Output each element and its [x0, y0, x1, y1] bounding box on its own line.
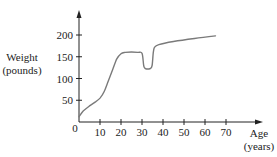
y-axis-label-line2: (pounds) — [2, 64, 41, 77]
x-tick-label: 10 — [95, 126, 107, 138]
x-tick-label: 50 — [179, 126, 191, 138]
x-tick-label: 60 — [200, 126, 212, 138]
y-tick-label: 150 — [57, 51, 74, 63]
x-axis — [79, 120, 263, 125]
y-ticks: 50100150200 — [57, 29, 83, 106]
y-axis — [77, 10, 82, 122]
x-axis-arrow-icon — [255, 120, 263, 125]
weight-age-chart: 50100150200 10203040506070 0 Weight (pou… — [0, 0, 277, 157]
y-tick-label: 200 — [57, 29, 74, 41]
weight-curve — [79, 36, 216, 117]
y-axis-arrow-icon — [77, 10, 82, 18]
y-tick-label: 50 — [62, 94, 74, 106]
x-tick-label: 40 — [158, 126, 170, 138]
x-tick-label: 70 — [221, 126, 233, 138]
y-axis-label-line1: Weight — [6, 51, 38, 63]
x-tick-label: 20 — [116, 126, 128, 138]
x-tick-label: 30 — [137, 126, 149, 138]
origin-label: 0 — [72, 122, 78, 134]
y-tick-label: 100 — [57, 73, 74, 85]
x-axis-label-line1: Age — [250, 127, 268, 139]
x-axis-label-line2: (years) — [244, 140, 275, 153]
